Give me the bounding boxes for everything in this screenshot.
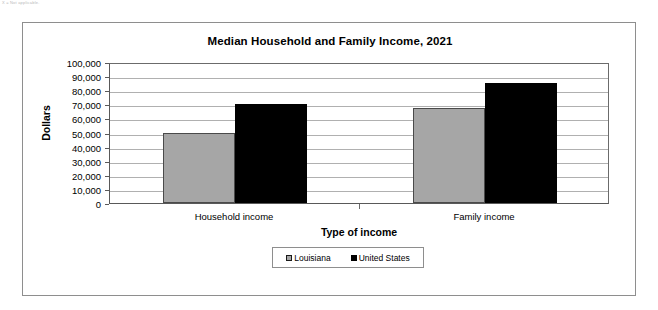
legend-label-louisiana: Louisiana: [294, 253, 330, 263]
y-axis-tick-mark: [105, 148, 109, 149]
y-axis-tick-label: 10,000: [41, 184, 101, 195]
y-axis-tick-mark: [105, 162, 109, 163]
x-axis-tick-mark: [359, 204, 360, 209]
y-axis-tick-mark: [105, 190, 109, 191]
y-axis-tick-label: 30,000: [41, 156, 101, 167]
legend-swatch-icon-united-states: [351, 255, 357, 261]
chart-legend: Louisiana United States: [272, 247, 424, 268]
legend-swatch-icon-louisiana: [286, 255, 292, 261]
bar-family-income-louisiana: [413, 108, 485, 203]
y-axis-tick-label: 0: [41, 199, 101, 210]
legend-item-united-states[interactable]: United States: [351, 253, 410, 263]
y-axis-tick-mark: [105, 119, 109, 120]
y-axis-tick-label: 40,000: [41, 142, 101, 153]
y-axis-tick-label: 60,000: [41, 114, 101, 125]
y-axis-tick-mark: [105, 91, 109, 92]
y-axis-tick-label: 70,000: [41, 100, 101, 111]
y-axis-tick-mark: [105, 63, 109, 64]
y-axis-tick-label: 20,000: [41, 170, 101, 181]
y-axis-tick-mark: [105, 134, 109, 135]
x-axis-category-label: Family income: [453, 211, 514, 222]
y-axis-tick-label: 80,000: [41, 86, 101, 97]
x-axis-category-label: Household income: [195, 211, 274, 222]
gridline: [110, 78, 608, 79]
legend-label-united-states: United States: [359, 253, 410, 263]
legend-item-louisiana[interactable]: Louisiana: [286, 253, 330, 263]
y-axis-tick-mark: [105, 176, 109, 177]
y-axis-tick-mark: [105, 204, 109, 205]
bar-household-income-louisiana: [163, 133, 235, 204]
bar-household-income-united-states: [235, 104, 307, 203]
plot-area: [109, 63, 609, 204]
y-axis-tick-label: 100,000: [41, 58, 101, 69]
chart-title: Median Household and Family Income, 2021: [23, 35, 637, 47]
y-axis-tick-mark: [105, 77, 109, 78]
x-axis-title: Type of income: [109, 226, 609, 238]
bar-family-income-united-states: [485, 83, 557, 203]
y-axis-tick-label: 90,000: [41, 72, 101, 83]
chart-container: Median Household and Family Income, 2021…: [22, 22, 636, 296]
y-axis-tick-mark: [105, 105, 109, 106]
page-footnote: X = Not applicable.: [2, 0, 40, 5]
y-axis-tick-label: 50,000: [41, 128, 101, 139]
